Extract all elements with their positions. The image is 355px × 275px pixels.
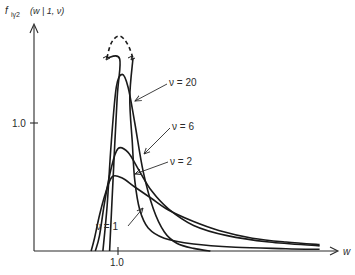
label-nu-2: ν = 2 xyxy=(170,156,192,167)
y-label-subscript: iγ2 xyxy=(11,11,20,19)
annotation-nu-20: ν = 20 xyxy=(135,77,197,101)
annotation-nu-6: ν = 6 xyxy=(144,121,194,154)
curves xyxy=(91,36,320,251)
y-tick-label: 1.0 xyxy=(12,118,26,129)
curve-nu-2 xyxy=(95,148,319,251)
x-axis-label: w xyxy=(343,246,351,257)
annotation-nu-2: ν = 2 xyxy=(135,156,192,174)
label-nu-20: ν = 20 xyxy=(169,77,197,88)
chart: 1.0 1.0 w f iγ2 (w | 1, ν) ν = 20 ν = 6 … xyxy=(0,0,355,275)
label-nu-1: ν = 1 xyxy=(96,221,118,232)
curve-nu-1 xyxy=(91,176,320,251)
curve-nu-6 xyxy=(103,74,210,251)
y-axis-label: f iγ2 (w | 1, ν) xyxy=(5,5,64,19)
break-mark-left-icon xyxy=(103,56,110,60)
y-label-f: f xyxy=(5,5,9,16)
curve-nu-20-dashed-top xyxy=(107,36,133,58)
label-nu-6: ν = 6 xyxy=(172,121,194,132)
y-label-args: (w | 1, ν) xyxy=(30,6,64,16)
break-mark-right-icon xyxy=(128,56,135,60)
x-tick-label: 1.0 xyxy=(110,257,124,268)
